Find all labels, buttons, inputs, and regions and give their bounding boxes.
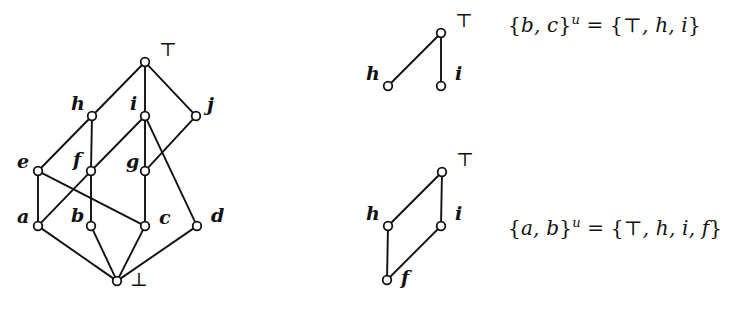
lattice-node-h2 bbox=[384, 222, 393, 231]
lattice-edge bbox=[148, 119, 193, 167]
lattice-node-t1 bbox=[437, 29, 446, 38]
lattice-node-h1 bbox=[384, 82, 393, 91]
lattice-node-top bbox=[141, 58, 150, 67]
lattice-edge bbox=[387, 231, 388, 276]
lattice-node-b bbox=[87, 222, 96, 231]
node-label-c: c bbox=[159, 208, 171, 227]
lattice-edge bbox=[148, 65, 193, 112]
lattice-edge bbox=[441, 177, 442, 222]
sub-lattice-2-nodes bbox=[383, 168, 447, 285]
lattice-edge bbox=[42, 229, 113, 279]
lattice-node-g bbox=[141, 167, 150, 176]
node-label-j: j bbox=[207, 95, 214, 114]
node-label-e: e bbox=[17, 152, 29, 171]
node-label-h: h bbox=[71, 94, 85, 113]
node-label-i1: i bbox=[455, 64, 462, 83]
lattice-node-i bbox=[141, 112, 150, 121]
lattice-node-f bbox=[87, 167, 96, 176]
node-label-t1: ⊤ bbox=[455, 11, 473, 30]
node-label-f2: f bbox=[401, 268, 409, 287]
node-label-bot: ⊥ bbox=[130, 270, 148, 289]
lattice-node-e bbox=[34, 167, 43, 176]
lattice-node-i2 bbox=[437, 222, 446, 231]
node-label-f: f bbox=[73, 150, 81, 169]
lattice-node-f2 bbox=[383, 276, 392, 285]
node-label-a: a bbox=[17, 207, 29, 226]
node-label-top: ⊤ bbox=[159, 40, 177, 59]
node-label-b: b bbox=[71, 206, 84, 225]
node-label-i: i bbox=[130, 94, 137, 113]
lattice-node-h bbox=[88, 112, 97, 121]
lattice-diagram-svg bbox=[0, 0, 754, 316]
node-label-h2: h bbox=[366, 204, 380, 223]
lattice-edge bbox=[391, 175, 438, 222]
lattice-edge bbox=[41, 119, 89, 167]
lattice-node-a bbox=[34, 222, 43, 231]
lattice-node-c bbox=[141, 222, 150, 231]
equation-upper-bound-ab: {a, b}u = {⊤, h, i, f} bbox=[508, 215, 722, 240]
node-label-t2: ⊤ bbox=[456, 150, 474, 169]
sub-lattice-1-edges bbox=[391, 36, 441, 82]
main-lattice-edges bbox=[38, 65, 195, 278]
equation-upper-bound-bc: {b, c}u = {⊤, h, i} bbox=[508, 12, 701, 37]
lattice-node-j bbox=[192, 112, 201, 121]
node-label-h1: h bbox=[366, 64, 380, 83]
lattice-edge bbox=[93, 230, 115, 277]
node-label-d: d bbox=[211, 206, 224, 225]
sub-lattice-2-edges bbox=[387, 175, 442, 276]
main-lattice-nodes bbox=[34, 58, 202, 286]
lattice-node-t2 bbox=[438, 168, 447, 177]
lattice-edge bbox=[391, 36, 437, 82]
lattice-node-d bbox=[193, 222, 202, 231]
lattice-edge bbox=[390, 229, 437, 276]
lattice-edge bbox=[91, 121, 92, 167]
figure-canvas: ⊤hijefgabcd⊥⊤hi⊤hif {b, c}u = {⊤, h, i} … bbox=[0, 0, 754, 316]
lattice-edge bbox=[147, 120, 195, 222]
node-label-g: g bbox=[126, 152, 139, 171]
lattice-node-i1 bbox=[437, 82, 446, 91]
lattice-node-bot bbox=[113, 277, 122, 286]
node-label-i2: i bbox=[455, 204, 462, 223]
